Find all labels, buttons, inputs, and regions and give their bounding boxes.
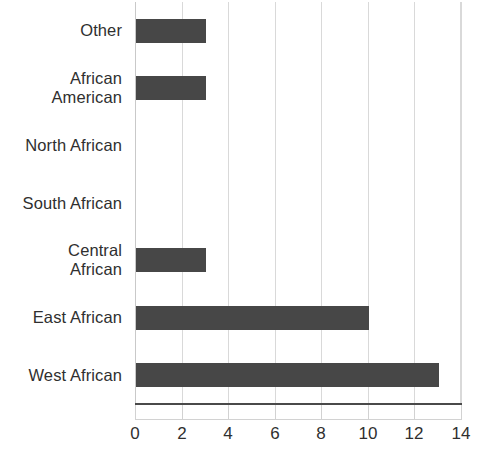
bar-african-american [136, 76, 206, 100]
category-label-east-african: East African [0, 308, 122, 327]
gridline-x-4 [228, 2, 229, 404]
category-label-line: American [52, 88, 123, 107]
x-axis-tick-labels: 02468101214 [0, 423, 480, 449]
bar-chart: OtherAfricanAmericanNorth AfricanSouth A… [0, 0, 480, 450]
tick-mark-10 [368, 405, 369, 420]
x-tick-label-10: 10 [348, 423, 388, 445]
gridline-x-12 [414, 2, 415, 404]
category-label-line: West African [28, 366, 122, 385]
category-label-line: African [70, 69, 122, 88]
tick-mark-14 [461, 405, 462, 420]
gridline-x-8 [321, 2, 322, 404]
category-axis-labels: OtherAfricanAmericanNorth AfricanSouth A… [0, 2, 128, 404]
tick-mark-0 [135, 405, 136, 420]
category-label-south-african: South African [0, 194, 122, 213]
gridline-x-6 [275, 2, 276, 404]
category-label-central-african: CentralAfrican [0, 241, 122, 279]
x-tick-label-8: 8 [301, 423, 341, 445]
x-tick-label-4: 4 [208, 423, 248, 445]
category-label-north-african: North African [0, 136, 122, 155]
bar-other [136, 19, 206, 43]
gridline-x-2 [182, 2, 183, 404]
category-label-other: Other [0, 21, 122, 40]
bar-central-african [136, 248, 206, 272]
tick-mark-6 [275, 405, 276, 420]
category-label-african-american: AfricanAmerican [0, 69, 122, 107]
gridline-x-14 [461, 2, 462, 404]
category-label-line: Other [80, 21, 122, 40]
category-label-line: North African [25, 136, 122, 155]
bar-east-african [136, 306, 369, 330]
x-tick-label-14: 14 [441, 423, 480, 445]
tick-mark-12 [414, 405, 415, 420]
tick-mark-8 [321, 405, 322, 420]
category-label-line: South African [23, 194, 122, 213]
category-label-west-african: West African [0, 366, 122, 385]
x-tick-label-2: 2 [162, 423, 202, 445]
x-axis-tick-baseline [135, 419, 462, 420]
category-label-line: Central [68, 241, 122, 260]
bar-west-african [136, 363, 439, 387]
plot-area [135, 2, 461, 404]
category-label-line: East African [33, 308, 122, 327]
gridline-x-10 [368, 2, 369, 404]
x-tick-label-12: 12 [394, 423, 434, 445]
x-tick-label-0: 0 [115, 423, 155, 445]
x-tick-label-6: 6 [255, 423, 295, 445]
category-label-line: African [70, 260, 122, 279]
tick-mark-4 [228, 405, 229, 420]
tick-mark-2 [182, 405, 183, 420]
y-axis-line [135, 2, 136, 404]
